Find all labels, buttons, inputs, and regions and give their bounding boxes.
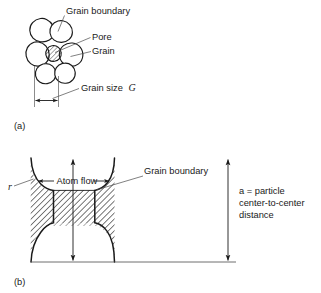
pore-shape — [46, 46, 61, 62]
label-center-distance-line-1: a = particle — [239, 186, 285, 196]
label-center-distance-line-3: distance — [239, 210, 274, 220]
label-atom-flow: Atom flow — [57, 176, 98, 186]
label-pore: Pore — [92, 32, 112, 42]
figure-canvas: Grain boundary Pore Grain Grain size G (… — [0, 0, 321, 293]
label-grain-size: Grain size — [81, 83, 123, 93]
label-grain-boundary-a: Grain boundary — [66, 6, 130, 16]
label-grain-size-symbol: G — [129, 82, 136, 93]
grain-boundary-leader-b — [96, 176, 143, 190]
neck-body-hatched-fix — [28, 155, 120, 158]
grain-size-leader — [53, 89, 80, 99]
panel-a-group: Grain boundary Pore Grain Grain size G (… — [14, 6, 136, 131]
grain-shape-lower-left — [35, 64, 56, 84]
label-center-distance-line-2: center-to-center — [239, 198, 305, 208]
label-grain-boundary-b: Grain boundary — [144, 166, 208, 176]
grain-shape-lower-right — [55, 63, 76, 83]
panel-a-id: (a) — [14, 121, 25, 131]
label-grain: Grain — [92, 46, 115, 56]
panel-b-id: (b) — [14, 277, 25, 287]
panel-b-group: Atom flow Grain boundary r a = particle … — [8, 155, 305, 287]
label-neck-radius-symbol: r — [8, 181, 12, 192]
sintering-diagram-figure: Grain boundary Pore Grain Grain size G (… — [0, 0, 321, 293]
